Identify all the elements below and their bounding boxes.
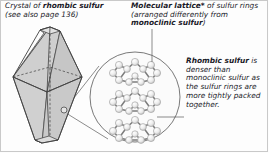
caption-lattice: Molecular lattice* of sulfur rings (arra… <box>131 2 261 28</box>
rhombic-sulfur-crystal <box>13 27 82 143</box>
caption-crystal: Crystal of rhombic sulfur (see also page… <box>5 2 130 19</box>
caption-density: Rhombic sulfur is denser than monoclinic… <box>186 57 268 109</box>
caption-lattice-term: Molecular lattice* <box>131 1 205 10</box>
caption-crystal-term: rhombic sulfur <box>43 1 104 10</box>
magnification-source-point <box>61 107 67 113</box>
caption-crystal-subtext: (see also page 136) <box>5 10 78 19</box>
caption-crystal-lead: Crystal of <box>5 1 43 10</box>
caption-density-term: Rhombic sulfur <box>186 56 249 65</box>
caption-lattice-tail: ) <box>203 18 206 27</box>
caption-lattice-term2: monoclinic sulfur <box>131 18 203 27</box>
caption-density-body: is denser than monoclinic sulfur as the … <box>186 56 260 109</box>
